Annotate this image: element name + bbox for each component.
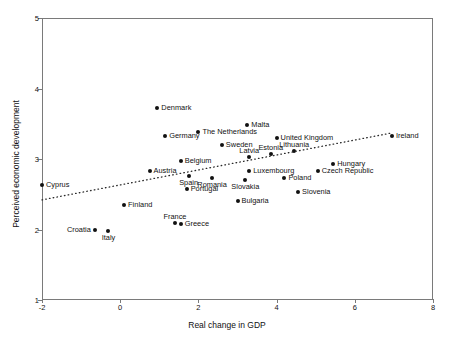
x-tick-label: -2 <box>39 303 46 312</box>
data-point-label: Belgium <box>185 157 212 164</box>
x-tick-label: 8 <box>431 303 435 312</box>
y-tick-label: 5 <box>30 14 39 23</box>
data-point <box>316 169 320 173</box>
data-point-label: Poland <box>288 174 311 181</box>
plot-area <box>42 18 433 300</box>
data-point <box>173 221 177 225</box>
data-point <box>390 134 394 138</box>
data-point-label: Latvia <box>239 146 259 153</box>
x-tick-label: 0 <box>118 303 122 312</box>
data-point-label: Slovakia <box>231 183 259 190</box>
data-point-label: Austria <box>154 167 177 174</box>
data-point <box>220 143 224 147</box>
data-point-label: Finland <box>128 201 152 208</box>
data-point <box>236 199 240 203</box>
data-point-label: Estonia <box>258 144 283 151</box>
data-point <box>40 183 44 187</box>
data-point-label: Germany <box>169 132 199 139</box>
data-point <box>247 155 251 159</box>
x-axis-title: Real change in GDP <box>0 320 454 330</box>
x-tick-label: 2 <box>196 303 200 312</box>
data-point <box>296 190 300 194</box>
scatter-chart: -20246812345 DenmarkMaltaThe Netherlands… <box>0 0 454 341</box>
data-point <box>179 222 183 226</box>
data-point-label: Slovenia <box>302 188 330 195</box>
data-point <box>122 203 126 207</box>
data-point-label: Croatia <box>67 226 91 233</box>
y-tick-label: 2 <box>30 225 39 234</box>
x-tick-label: 4 <box>275 303 279 312</box>
data-point <box>292 149 296 153</box>
data-point <box>247 169 251 173</box>
data-point <box>163 134 167 138</box>
data-point-label: Italy <box>102 234 116 241</box>
data-point-label: Ireland <box>396 133 419 140</box>
y-axis-title: Perceived economic development <box>11 64 21 264</box>
data-point-label: France <box>163 213 186 220</box>
data-point-label: Greece <box>185 220 209 227</box>
data-point <box>185 187 189 191</box>
data-point <box>282 176 286 180</box>
data-point-label: Bulgaria <box>242 198 269 205</box>
data-point-label: The Netherlands <box>202 129 257 136</box>
y-tick-label: 1 <box>30 296 39 305</box>
data-point-label: Cyprus <box>46 181 69 188</box>
data-point-label: Lithuania <box>279 140 309 147</box>
data-point <box>148 169 152 173</box>
y-tick-label: 3 <box>30 155 39 164</box>
x-tick-label: 6 <box>353 303 357 312</box>
data-point <box>93 228 97 232</box>
data-point-label: Portugal <box>191 186 219 193</box>
data-point <box>155 106 159 110</box>
y-tick-label: 4 <box>30 84 39 93</box>
data-point <box>179 159 183 163</box>
data-point-label: Denmark <box>161 105 191 112</box>
data-point <box>275 136 279 140</box>
data-point <box>269 152 273 156</box>
data-point-label: Czech Republic <box>322 167 374 174</box>
